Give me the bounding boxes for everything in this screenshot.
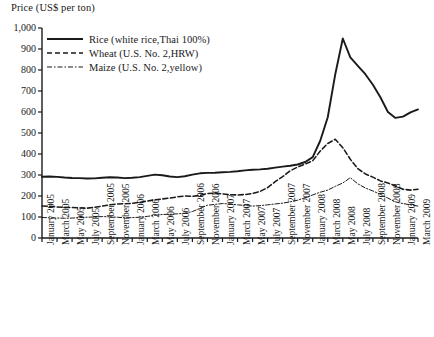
x-axis-tick-label: September 2007 [287, 183, 297, 245]
y-axis-tick-label: 600 [2, 107, 36, 117]
series-line [42, 39, 418, 179]
x-axis-tick-label: November 2007 [302, 184, 312, 245]
x-axis-tick-label: July 2007 [272, 208, 282, 245]
x-axis-tick-label: November 2006 [211, 184, 221, 245]
x-axis-tick-label: November 2008 [392, 184, 402, 245]
x-axis-tick-label: September 2006 [196, 183, 206, 245]
x-axis-tick-label: January 2005 [46, 194, 56, 245]
x-axis-tick-label: January 2007 [226, 194, 236, 245]
y-axis-tick-label: 700 [2, 86, 36, 96]
x-axis-tick-label: March 2007 [242, 199, 252, 245]
x-axis-tick-label: September 2008 [377, 183, 387, 245]
x-axis-tick-label: September 2005 [106, 183, 116, 245]
x-axis-tick-label: January 2009 [407, 194, 417, 245]
x-axis-tick-label: January 2008 [317, 194, 327, 245]
y-axis-tick-label: 500 [2, 128, 36, 138]
x-axis-tick-label: July 2005 [91, 208, 101, 245]
x-axis-tick-label: May 2005 [76, 206, 86, 245]
x-axis-tick-label: May 2006 [166, 206, 176, 245]
x-axis-tick-label: May 2007 [257, 206, 267, 245]
x-axis-tick-label: November 2005 [121, 184, 131, 245]
price-line-chart: Price (US$ per ton) Rice (white rice,Tha… [0, 0, 434, 337]
x-axis-tick-label: January 2006 [136, 194, 146, 245]
y-axis-tick-label: 0 [2, 233, 36, 243]
x-axis-tick-label: July 2008 [362, 208, 372, 245]
plot-area [0, 0, 434, 337]
y-axis-tick-label: 1,000 [2, 23, 36, 33]
x-axis-tick-label: May 2008 [347, 206, 357, 245]
x-axis-tick-label: March 2009 [422, 199, 432, 245]
x-axis-tick-label: March 2006 [151, 199, 161, 245]
y-axis-tick-label: 900 [2, 44, 36, 54]
x-axis-tick-label: March 2005 [61, 199, 71, 245]
y-axis-tick-label: 800 [2, 65, 36, 75]
x-axis-tick-label: July 2006 [181, 208, 191, 245]
y-axis-tick-label: 300 [2, 170, 36, 180]
y-axis-tick-label: 100 [2, 212, 36, 222]
x-axis-tick-label: March 2008 [332, 199, 342, 245]
y-axis-tick-label: 400 [2, 149, 36, 159]
y-axis-tick-label: 200 [2, 191, 36, 201]
